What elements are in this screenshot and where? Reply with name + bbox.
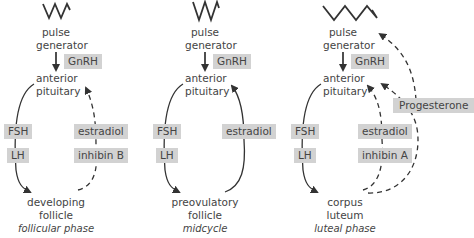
pulse-generator-label: pulse generator (36, 26, 76, 52)
pituitary-line2: pituitary (185, 85, 225, 98)
pituitary-line2: pituitary (323, 85, 363, 98)
preovulatory-follicle-label: preovulatory follicle (170, 196, 240, 222)
pulse-wave-icon-3 (323, 6, 377, 20)
pulse-wave-icon-2 (193, 2, 219, 20)
pulse-generator-label: pulse generator (323, 26, 363, 52)
pulse-label-line2: generator (185, 39, 225, 52)
gnrh-box: GnRH (213, 54, 251, 69)
pituitary-line1: anterior (323, 72, 363, 85)
pulse-generator-label: pulse generator (185, 26, 225, 52)
developing-follicle-label: developing follicle (26, 196, 86, 222)
anterior-pituitary-label: anterior pituitary (36, 72, 76, 98)
fsh-box: FSH (291, 124, 319, 139)
anterior-pituitary-label: anterior pituitary (185, 72, 225, 98)
pulse-label-line1: pulse (36, 26, 76, 39)
pulse-label-line2: generator (323, 39, 363, 52)
lh-box: LH (7, 148, 29, 163)
pulse-label-line1: pulse (323, 26, 363, 39)
pituitary-line2: pituitary (36, 85, 76, 98)
phase-label-midcycle: midcycle (170, 222, 240, 235)
gnrh-box: GnRH (64, 54, 102, 69)
target-line1: preovulatory (170, 196, 240, 209)
anterior-pituitary-label: anterior pituitary (323, 72, 363, 98)
target-line1: developing (26, 196, 86, 209)
progesterone-box: Progesterone (393, 98, 474, 113)
inhibin-b-box: inhibin B (74, 148, 128, 163)
estradiol-box: estradiol (358, 124, 412, 139)
fsh-box: FSH (4, 124, 32, 139)
estradiol-box: estradiol (222, 124, 276, 139)
target-line2: follicle (170, 209, 240, 222)
target-line2: luteum (320, 209, 370, 222)
pituitary-line1: anterior (36, 72, 76, 85)
pituitary-line1: anterior (185, 72, 225, 85)
phase-label-follicular: follicular phase (16, 222, 96, 235)
pulse-wave-icon-1 (43, 4, 70, 18)
pulse-label-line1: pulse (185, 26, 225, 39)
lh-box: LH (294, 148, 316, 163)
pulse-label-line2: generator (36, 39, 76, 52)
phase-label-luteal: luteal phase (310, 222, 380, 235)
fsh-box: FSH (153, 124, 181, 139)
inhibin-a-box: inhibin A (358, 148, 412, 163)
corpus-luteum-label: corpus luteum (320, 196, 370, 222)
target-line1: corpus (320, 196, 370, 209)
estradiol-box: estradiol (74, 124, 128, 139)
target-line2: follicle (26, 209, 86, 222)
lh-box: LH (156, 148, 178, 163)
gnrh-box: GnRH (351, 54, 389, 69)
